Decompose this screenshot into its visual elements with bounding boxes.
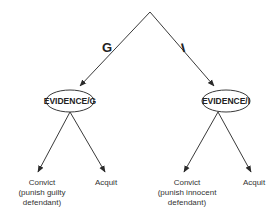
leaf-g-convict-line2: (punish guilty xyxy=(14,188,70,198)
leaf-i-convict-line1: Convict xyxy=(154,178,220,188)
leaf-i-convict-line3: defendant) xyxy=(154,198,220,208)
branch-label-i: I xyxy=(179,40,186,55)
leaf-i-convict: Convict (punish innocent defendant) xyxy=(154,178,220,208)
edge-g-to-convict xyxy=(38,112,70,172)
leaf-i-acquit: Acquit xyxy=(236,178,272,188)
leaf-i-convict-line2: (punish innocent xyxy=(154,188,220,198)
branch-label-g: G xyxy=(102,40,112,55)
edge-i-to-acquit xyxy=(218,112,251,172)
leaf-g-acquit: Acquit xyxy=(88,178,124,188)
node-evidence-i-label: EVIDENCE/I xyxy=(202,96,250,106)
edge-g-to-acquit xyxy=(70,112,105,172)
leaf-g-convict-line3: defendant) xyxy=(14,198,70,208)
leaf-g-convict-line1: Convict xyxy=(14,178,70,188)
leaf-g-convict: Convict (punish guilty defendant) xyxy=(14,178,70,208)
edge-root-to-g xyxy=(80,12,150,86)
node-evidence-g-label: EVIDENCE/G xyxy=(44,96,97,106)
leaf-g-acquit-line1: Acquit xyxy=(88,178,124,188)
edge-i-to-convict xyxy=(184,112,218,172)
leaf-i-acquit-line1: Acquit xyxy=(236,178,272,188)
